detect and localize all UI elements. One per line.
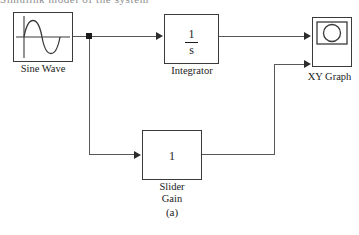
- block-label-sine-wave: Sine Wave: [3, 63, 83, 75]
- integrator-transfer-function: 1 s: [165, 28, 218, 56]
- integrator-numerator: 1: [165, 28, 218, 40]
- block-xy-graph[interactable]: [312, 17, 352, 67]
- sine-wave-icon: [14, 13, 72, 61]
- block-label-xy-graph: XY Graph: [300, 71, 359, 83]
- clipped-header-text: Simulink model of the system: [0, 0, 359, 7]
- wire-to-slider-gain: [89, 154, 135, 155]
- block-sine-wave[interactable]: [13, 12, 73, 62]
- arrowhead-xy-graph-input2: [304, 60, 311, 68]
- arrowhead-xy-graph-input1: [304, 32, 311, 40]
- block-integrator[interactable]: 1 s: [164, 14, 219, 64]
- simulink-model-figure: Simulink model of the system Sine Wave 1…: [0, 0, 359, 235]
- block-label-slider-gain: Slider Gain: [137, 181, 207, 204]
- wire-junction-to-integrator: [91, 36, 157, 37]
- signal-junction-dot: [86, 33, 92, 39]
- block-slider-gain[interactable]: 1: [142, 130, 202, 180]
- arrowhead-integrator-input: [156, 32, 163, 40]
- integrator-denominator: s: [165, 44, 218, 56]
- block-label-integrator: Integrator: [156, 65, 228, 77]
- wire-slider-gain-output: [202, 154, 275, 155]
- wire-junction-down: [89, 36, 90, 155]
- xy-graph-icon: [313, 18, 351, 66]
- wire-integrator-to-xy-graph: [219, 36, 305, 37]
- wire-to-xy-graph-input2: [274, 64, 305, 65]
- slider-gain-value: 1: [143, 149, 201, 164]
- arrowhead-slider-gain-input: [134, 151, 141, 159]
- figure-caption: (a): [142, 206, 202, 218]
- wire-slider-gain-up: [274, 64, 275, 155]
